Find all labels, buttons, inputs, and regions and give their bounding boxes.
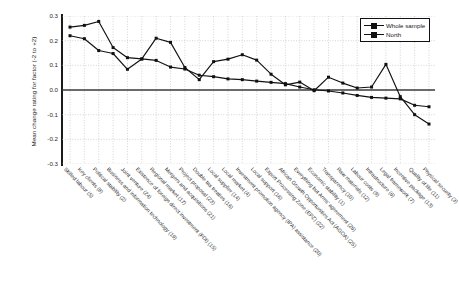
legend-marker-icon bbox=[364, 30, 384, 39]
y-axis-tick-label: -0.1 bbox=[24, 111, 58, 118]
x-axis-tick-group: Skilled labour (5)Key clients (8)Politic… bbox=[62, 166, 442, 304]
y-axis-tick-label: -0.3 bbox=[24, 160, 58, 167]
y-axis-tick-label: 0.1 bbox=[24, 61, 58, 68]
y-axis-tick-label: -0.2 bbox=[24, 135, 58, 142]
y-axis-tick-label: 0.3 bbox=[24, 12, 58, 19]
legend-item-north: North bbox=[364, 30, 425, 39]
legend-item-whole-sample: Whole sample bbox=[364, 21, 425, 30]
legend-marker-icon bbox=[364, 21, 384, 30]
y-axis-tick-label: 0.2 bbox=[24, 37, 58, 44]
y-axis-tick-label: 0.0 bbox=[24, 86, 58, 93]
legend-label: North bbox=[386, 31, 401, 38]
chart-legend: Whole sample North bbox=[360, 18, 430, 42]
legend-label: Whole sample bbox=[386, 22, 425, 29]
